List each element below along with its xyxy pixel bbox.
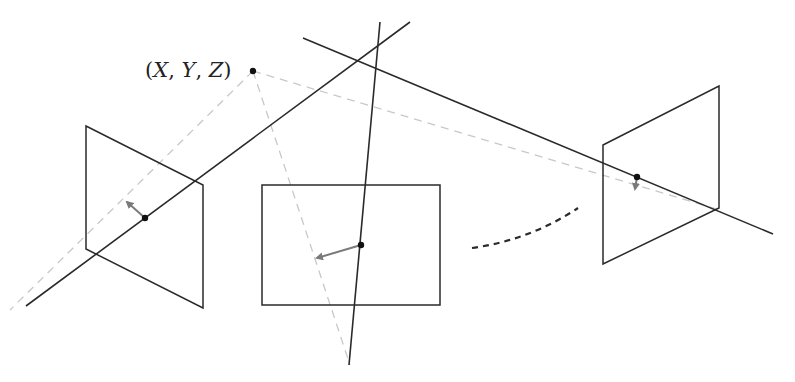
dashed-to-left (10, 71, 253, 310)
camera-rays (26, 22, 773, 365)
label-z: Z (209, 58, 224, 82)
world-point-label: (X, Y, Z) (145, 58, 232, 82)
label-sep: , (168, 58, 181, 82)
label-sep: , (195, 58, 208, 82)
image-planes (86, 86, 719, 308)
camera-geometry-diagram (0, 0, 795, 382)
label-y: Y (182, 58, 196, 82)
dashed-projection-lines (10, 71, 720, 365)
left-error-arrow (127, 202, 145, 218)
right-projection-dot (634, 174, 640, 180)
ray-middle (349, 22, 380, 365)
dashed-to-middle (253, 71, 350, 365)
world-point-dot (250, 68, 256, 74)
ray-right (303, 38, 773, 234)
label-x: X (153, 58, 168, 82)
label-close-paren: ) (223, 58, 231, 82)
right-image-plane (603, 86, 719, 264)
middle-error-arrow (317, 245, 361, 258)
left-projection-dot (142, 215, 148, 221)
middle-projection-dot (358, 242, 364, 248)
more-cameras-curve (472, 208, 578, 248)
middle-image-plane (262, 185, 440, 305)
label-open-paren: ( (145, 58, 153, 82)
dashed-to-right (253, 71, 720, 210)
